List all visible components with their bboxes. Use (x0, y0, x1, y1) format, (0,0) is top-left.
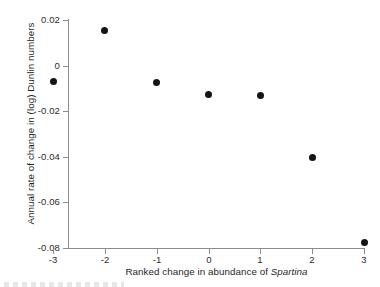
y-tick-mark (63, 248, 68, 249)
data-point (205, 91, 212, 98)
x-tick-label: -2 (93, 254, 117, 265)
y-tick-mark (63, 20, 68, 21)
x-tick-label: 2 (300, 254, 324, 265)
x-tick-label: -1 (145, 254, 169, 265)
x-axis-title: Ranked change in abundance of Spartina (68, 266, 365, 277)
x-axis-title-species: Spartina (271, 266, 308, 277)
x-tick-label: 1 (248, 254, 272, 265)
y-axis-title: Annual rate of change in (log) Dunlin nu… (25, 9, 36, 239)
scan-artifact (4, 282, 124, 287)
y-tick-mark (63, 157, 68, 158)
data-point (50, 78, 57, 85)
data-point (257, 92, 264, 99)
data-point (361, 239, 368, 246)
x-axis-spine (68, 248, 365, 249)
y-tick-mark (63, 66, 68, 67)
x-tick-label: -3 (41, 254, 65, 265)
x-axis-title-text: Ranked change in abundance of (125, 266, 270, 277)
scatter-plot-figure: 0.020-0.02-0.04-0.06-0.08 -3-2-10123 Ann… (0, 0, 380, 287)
x-tick-label: 0 (197, 254, 221, 265)
x-tick-label: 3 (352, 254, 376, 265)
plot-area: 0.020-0.02-0.04-0.06-0.08 -3-2-10123 Ann… (0, 0, 380, 287)
data-point (309, 154, 316, 161)
y-tick-mark (63, 111, 68, 112)
y-tick-label: -0.08 (26, 243, 60, 253)
y-tick-mark (63, 202, 68, 203)
y-axis-spine (68, 19, 69, 249)
data-point (153, 79, 160, 86)
data-point (101, 27, 108, 34)
